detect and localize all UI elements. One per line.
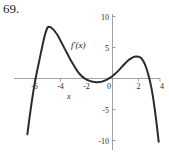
plot-area: -6 -4 -2 0 2 4 10 5 -5 -10 x f'(x) — [0, 0, 169, 163]
x-axis-label: x — [66, 91, 71, 101]
x-tick-label-5: 4 — [160, 82, 164, 91]
y-tick-label-0: 10 — [101, 13, 109, 22]
y-tick-label-1: 5 — [105, 44, 109, 53]
chart-svg: -6 -4 -2 0 2 4 10 5 -5 -10 x f'(x) — [0, 0, 169, 163]
y-tick-label-3: -10 — [98, 137, 109, 146]
x-tick-label-2: -2 — [83, 82, 90, 91]
x-tick-marks — [35, 79, 161, 82]
x-tick-label-1: -4 — [57, 82, 64, 91]
figure-container: 69. -6 - — [0, 0, 169, 163]
y-tick-label-2: -5 — [102, 106, 109, 115]
curve-label: f'(x) — [71, 40, 85, 50]
x-tick-label-3: 0 — [107, 82, 111, 91]
x-tick-label-4: 2 — [137, 82, 141, 91]
